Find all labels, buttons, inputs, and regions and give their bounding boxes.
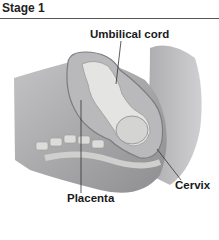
fetal-head: [116, 116, 148, 144]
placenta-label: Placenta: [67, 192, 114, 204]
cervix-label: Cervix: [175, 179, 210, 191]
umbilical-cord-label: Umbilical cord: [90, 28, 169, 40]
